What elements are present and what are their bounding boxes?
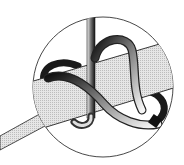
- knot-illustration: [0, 0, 184, 165]
- cord-vertical: [87, 8, 95, 118]
- knot-diagram: [0, 0, 184, 165]
